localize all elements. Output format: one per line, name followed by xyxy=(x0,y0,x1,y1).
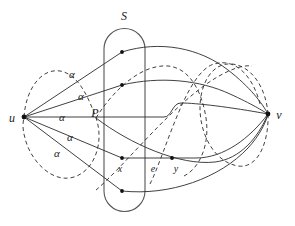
node-dot xyxy=(120,83,124,87)
set-s-tube xyxy=(104,28,145,211)
alpha-label-3: α xyxy=(59,111,65,123)
alpha-label-5: α xyxy=(54,147,60,159)
alpha-edge-2 xyxy=(24,85,122,117)
inner-arc-to-v xyxy=(96,114,268,162)
node-dot-y xyxy=(170,156,174,160)
bottom-arc xyxy=(122,114,268,192)
vertex-u-label: u xyxy=(9,111,15,125)
vertex-v-dot xyxy=(266,112,271,117)
graph-diagram: S u v P x e y α α α α α xyxy=(0,0,295,226)
vertex-y-label: y xyxy=(173,163,179,174)
vertex-x-label: x xyxy=(117,163,123,174)
alpha-label-4: α xyxy=(67,131,73,143)
dashed-loop-around-v xyxy=(200,64,268,166)
node-dot xyxy=(120,189,124,193)
node-dot xyxy=(120,50,124,54)
edge-e-segment xyxy=(122,114,268,158)
path-p-label: P xyxy=(90,106,99,120)
set-s-label: S xyxy=(121,9,127,23)
alpha-edge-1 xyxy=(24,52,122,117)
dashed-hump-right xyxy=(150,63,260,184)
vertex-u-dot xyxy=(22,115,27,120)
alpha-label-2: α xyxy=(78,90,84,102)
node-dot-x xyxy=(120,156,124,160)
alpha-label-1: α xyxy=(69,68,75,80)
alpha-edge-4 xyxy=(24,117,122,158)
edge-e-label: e xyxy=(151,163,156,174)
vertex-v-label: v xyxy=(276,108,282,122)
